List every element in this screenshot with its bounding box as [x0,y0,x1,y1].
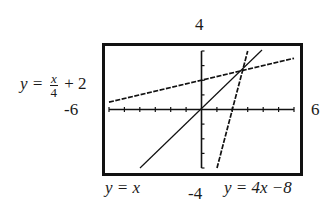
graph-window [0,0,323,202]
